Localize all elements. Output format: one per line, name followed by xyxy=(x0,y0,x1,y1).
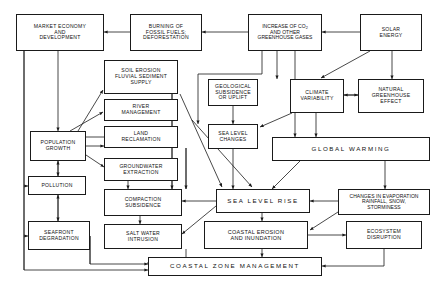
node-global-warming[interactable]: GLOBAL WARMING xyxy=(272,137,430,161)
node-groundwater-extraction[interactable]: GROUNDWATEREXTRACTION xyxy=(104,158,178,181)
node-population-growth[interactable]: POPULATIONGROWTH xyxy=(30,131,86,161)
node-label: SOLARENERGY xyxy=(378,27,403,38)
node-label: POPULATIONGROWTH xyxy=(40,140,77,151)
node-label: RIVERMANAGEMENT xyxy=(120,104,161,115)
node-label: SOIL EROSIONFLUVIAL SEDIMENTSUPPLY xyxy=(114,68,168,85)
node-burning-of-fossil-fuels[interactable]: BURNING OFFOSSIL FUELS;DEFORESTATION xyxy=(130,14,202,51)
node-climate-variability[interactable]: CLIMATEVARIABILITY xyxy=(290,79,344,113)
diagram-canvas: MARKET ECONOMYANDDEVELOPMENT BURNING OFF… xyxy=(0,0,448,290)
node-ecosystem-disruption[interactable]: ECOSYSTEMDISRUPTION xyxy=(346,221,422,249)
node-coastal-erosion-and-inundation[interactable]: COASTAL EROSIONAND INUNDATION xyxy=(204,221,308,249)
node-label: CLIMATEVARIABILITY xyxy=(299,90,334,101)
node-label: LANDRECLAMATION xyxy=(120,131,161,142)
node-label: COMPACTIONSUBSIDENCE xyxy=(124,197,163,208)
node-label: INCREASE OF CO2AND OTHERGREENHOUSE GASES xyxy=(257,24,314,41)
node-label: GROUNDWATEREXTRACTION xyxy=(118,164,163,175)
node-label: BURNING OFFOSSIL FUELS;DEFORESTATION xyxy=(142,24,190,41)
node-increase-of-co2[interactable]: INCREASE OF CO2AND OTHERGREENHOUSE GASES xyxy=(248,14,322,51)
node-land-reclamation[interactable]: LANDRECLAMATION xyxy=(104,126,178,148)
node-geological-subsidence-or-uplift[interactable]: GEOLOGICALSUBSIDENCEOR UPLIFT xyxy=(208,79,258,106)
node-natural-greenhouse-effect[interactable]: NATURALGREENHOUSEEFFECT xyxy=(358,79,424,113)
node-seafront-degradation[interactable]: SEAFRONTDEGRADATION xyxy=(28,221,90,250)
node-label: GEOLOGICALSUBSIDENCEOR UPLIFT xyxy=(214,84,252,101)
node-label: SEAFRONTDEGRADATION xyxy=(38,230,80,241)
node-salt-water-intrusion[interactable]: SALT WATERINTRUSION xyxy=(104,224,182,249)
node-solar-energy[interactable]: SOLARENERGY xyxy=(360,14,422,51)
node-label: MARKET ECONOMYANDDEVELOPMENT xyxy=(33,24,87,41)
node-label: SEA LEVEL RISE xyxy=(226,198,299,205)
node-label: SEA LEVELCHANGES xyxy=(217,131,248,142)
node-label: SALT WATERINTRUSION xyxy=(125,231,161,242)
node-soil-erosion-fluvial-sediment-supply[interactable]: SOIL EROSIONFLUVIAL SEDIMENTSUPPLY xyxy=(104,60,178,94)
node-label: GLOBAL WARMING xyxy=(310,146,391,153)
node-label: COASTAL EROSIONAND INUNDATION xyxy=(227,229,285,241)
node-sea-level-changes[interactable]: SEA LEVELCHANGES xyxy=(208,124,258,149)
node-label: POLLUTION xyxy=(40,183,73,189)
node-label: ECOSYSTEMDISRUPTION xyxy=(366,229,402,240)
node-pollution[interactable]: POLLUTION xyxy=(28,176,86,195)
node-label: COASTAL ZONE MANAGEMENT xyxy=(169,263,301,270)
node-market-economy-and-development[interactable]: MARKET ECONOMYANDDEVELOPMENT xyxy=(16,14,104,51)
node-label: NATURALGREENHOUSEEFFECT xyxy=(371,87,412,104)
node-river-management[interactable]: RIVERMANAGEMENT xyxy=(104,99,178,121)
node-coastal-zone-management[interactable]: COASTAL ZONE MANAGEMENT xyxy=(148,257,322,276)
node-compaction-subsidence[interactable]: COMPACTIONSUBSIDENCE xyxy=(104,189,182,216)
node-sea-level-rise[interactable]: SEA LEVEL RISE xyxy=(216,189,310,213)
node-label: CHANGES IN EVAPORATIONRAINFALL, SNOW,STO… xyxy=(349,194,420,211)
node-changes-in-evaporation[interactable]: CHANGES IN EVAPORATIONRAINFALL, SNOW,STO… xyxy=(338,189,430,215)
